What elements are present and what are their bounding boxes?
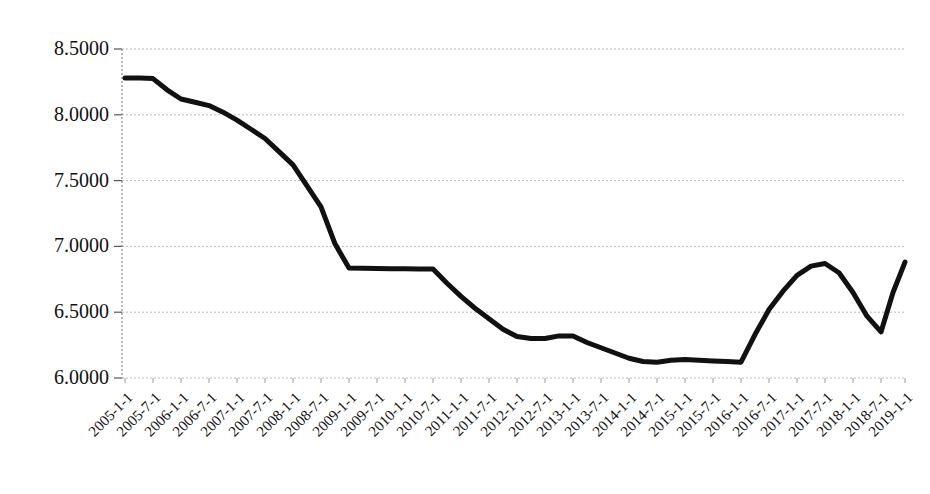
gridlines [114,49,905,378]
data-series-line [125,78,905,362]
x-axis-ticks [125,378,905,383]
line-chart: 6.00006.50007.00007.50008.00008.5000 200… [0,0,930,494]
chart-plot-area [0,0,930,494]
series-line [125,78,905,362]
